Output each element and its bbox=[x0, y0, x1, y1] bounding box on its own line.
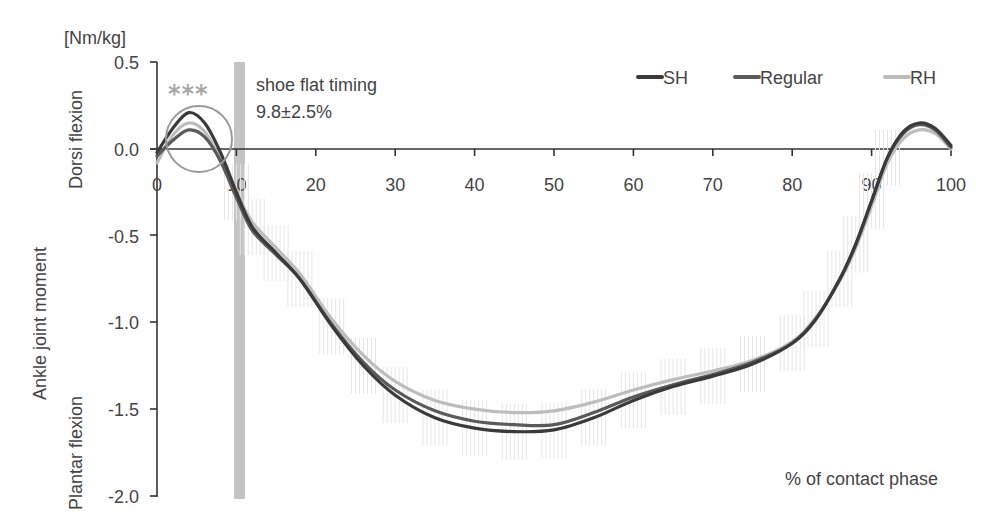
unit-label: [Nm/kg] bbox=[64, 28, 126, 48]
significance-stars: *** bbox=[168, 80, 209, 108]
x-tick-label: 60 bbox=[623, 175, 643, 195]
x-tick-label: 30 bbox=[385, 175, 405, 195]
shoe-flat-label: shoe flat timing bbox=[256, 75, 377, 95]
x-axis-ticks bbox=[236, 149, 951, 156]
y-tick-label: 0.0 bbox=[114, 140, 139, 160]
series-lines bbox=[157, 112, 951, 459]
legend-label: SH bbox=[663, 68, 688, 88]
x-tick-label: 80 bbox=[782, 175, 802, 195]
x-tick-label: 20 bbox=[306, 175, 326, 195]
legend-item-sh: SH bbox=[638, 68, 688, 88]
legend-item-regular: Regular bbox=[735, 68, 823, 88]
y-axis bbox=[150, 62, 157, 497]
x-tick-label: 50 bbox=[544, 175, 564, 195]
shoe-flat-value: 9.8±2.5% bbox=[256, 102, 332, 122]
y-tick-label: -1.5 bbox=[108, 400, 139, 420]
y-tick-labels: 0.50.0-0.5-1.0-1.5-2.0 bbox=[108, 53, 139, 507]
y-axis-label: Ankle joint moment bbox=[30, 247, 50, 400]
legend-label: Regular bbox=[760, 68, 823, 88]
y-axis-lower-label: Plantar flexion bbox=[66, 396, 86, 510]
x-axis-label: % of contact phase bbox=[785, 469, 938, 489]
x-tick-label: 40 bbox=[465, 175, 485, 195]
shoe-flat-timing-bar bbox=[234, 62, 245, 499]
legend-label: RH bbox=[910, 68, 936, 88]
y-tick-label: -1.0 bbox=[108, 313, 139, 333]
x-tick-label: 0 bbox=[152, 175, 162, 195]
ankle-moment-chart: 0.50.0-0.5-1.0-1.5-2.0 01020304050607080… bbox=[0, 0, 991, 527]
y-axis-upper-label: Dorsi flexion bbox=[66, 90, 86, 189]
y-tick-label: -2.0 bbox=[108, 487, 139, 507]
x-tick-labels: 0102030405060708090100 bbox=[152, 175, 966, 195]
y-tick-label: 0.5 bbox=[114, 53, 139, 73]
x-tick-label: 100 bbox=[936, 175, 966, 195]
x-tick-label: 70 bbox=[703, 175, 723, 195]
y-tick-label: -0.5 bbox=[108, 227, 139, 247]
legend: SHRegularRH bbox=[638, 68, 936, 88]
legend-item-rh: RH bbox=[885, 68, 936, 88]
